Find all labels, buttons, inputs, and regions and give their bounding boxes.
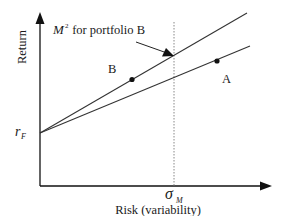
- y-axis-arrow-icon: [36, 12, 45, 24]
- x-axis-label: Risk (variability): [115, 203, 201, 216]
- m2-annotation-label: M 2 for portfolio B: [52, 22, 145, 37]
- sigma-m-tick-label: σ M: [165, 185, 184, 205]
- point-a: [214, 58, 219, 63]
- y-axis-label: Return: [15, 29, 29, 64]
- x-axis-arrow-icon: [260, 182, 272, 191]
- svg-text:for portfolio B: for portfolio B: [69, 23, 145, 37]
- svg-text:σ: σ: [165, 185, 174, 202]
- m2-annotation-arrow: [136, 42, 174, 57]
- svg-text:M: M: [52, 22, 65, 37]
- y-axis: [36, 12, 45, 186]
- point-b-label: B: [108, 62, 116, 76]
- m2-diagram: Return r F M 2 for portfolio B B A σ M R…: [0, 0, 286, 216]
- diagram-canvas: Return r F M 2 for portfolio B B A σ M R…: [0, 0, 286, 216]
- x-axis: [40, 182, 272, 191]
- svg-text:F: F: [20, 132, 26, 141]
- point-a-label: A: [222, 72, 231, 86]
- rf-label: r F: [15, 124, 26, 141]
- point-b: [129, 77, 134, 82]
